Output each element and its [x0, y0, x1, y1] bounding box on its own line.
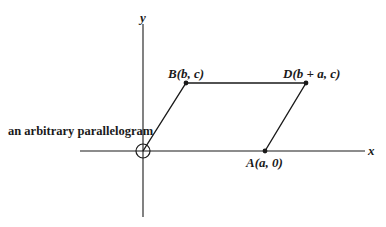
point-b-name: B: [168, 66, 177, 81]
point-d-coords: (b + a, c): [292, 66, 340, 81]
point-b-dot: [184, 81, 189, 86]
point-d-dot: [304, 81, 309, 86]
point-a-coords: (a, 0): [255, 155, 283, 170]
y-axis-label: y: [140, 11, 146, 24]
point-a-label: A(a, 0): [246, 156, 283, 169]
point-b-label: B(b, c): [168, 67, 204, 80]
parallelogram-shape: [143, 83, 306, 151]
point-a-name: A: [246, 155, 255, 170]
point-d-label: D(b + a, c): [283, 67, 340, 80]
point-b-coords: (b, c): [177, 66, 204, 81]
point-d-name: D: [283, 66, 292, 81]
parallelogram-diagram: [0, 0, 386, 227]
diagram-caption: an arbitrary parallelogram: [8, 125, 153, 138]
point-a-dot: [263, 149, 268, 154]
x-axis-label: x: [368, 144, 375, 157]
